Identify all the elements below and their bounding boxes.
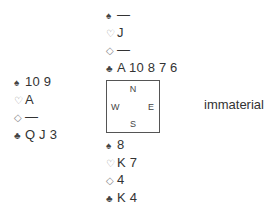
spade-icon: ♠ [106, 137, 117, 155]
east-hand: immaterial [204, 97, 264, 112]
south-diamonds: ◇4 [106, 171, 137, 189]
south-spades: ♠8 [106, 136, 137, 154]
south-hand: ♠8 ♡K 7 ◇4 ♣K 4 [106, 136, 137, 206]
compass-west: W [111, 102, 120, 112]
west-diamonds: ◇— [14, 108, 57, 126]
heart-icon: ♡ [106, 155, 117, 173]
north-hand: ♠— ♡J ◇— ♣A 10 8 7 6 [106, 6, 178, 76]
north-hearts: ♡J [106, 24, 178, 42]
heart-icon: ♡ [106, 25, 117, 43]
spade-icon: ♠ [14, 74, 25, 92]
diamond-icon: ◇ [14, 109, 25, 127]
compass-south: S [130, 119, 136, 129]
south-hearts: ♡K 7 [106, 154, 137, 172]
club-icon: ♣ [106, 190, 117, 208]
north-spades: ♠— [106, 6, 178, 24]
heart-icon: ♡ [14, 92, 25, 110]
west-spades: ♠10 9 [14, 73, 57, 91]
diamond-icon: ◇ [106, 172, 117, 190]
north-clubs: ♣A 10 8 7 6 [106, 59, 178, 77]
compass-north: N [130, 84, 137, 94]
compass-box: N W E S [106, 80, 160, 133]
west-clubs: ♣Q J 3 [14, 126, 57, 144]
west-hearts: ♡A [14, 91, 57, 109]
compass-east: E [148, 102, 154, 112]
north-diamonds: ◇— [106, 41, 178, 59]
club-icon: ♣ [106, 60, 117, 78]
spade-icon: ♠ [106, 7, 117, 25]
west-hand: ♠10 9 ♡A ◇— ♣Q J 3 [14, 73, 57, 143]
south-clubs: ♣K 4 [106, 189, 137, 207]
diamond-icon: ◇ [106, 42, 117, 60]
club-icon: ♣ [14, 127, 25, 145]
